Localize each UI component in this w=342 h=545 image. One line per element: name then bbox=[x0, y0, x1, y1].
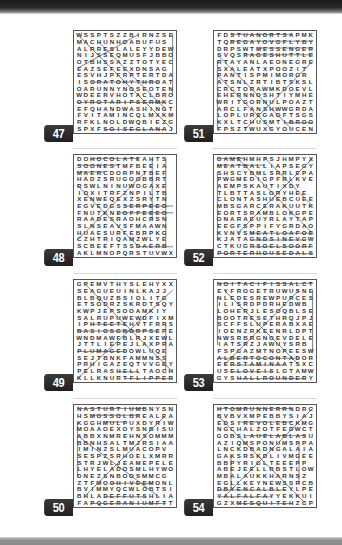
letter-cell: O bbox=[167, 466, 174, 473]
top-dark-band bbox=[0, 0, 342, 14]
word-search-puzzle-51: FDSTUANORTSAPMKTQREGAYOVGFLYBYDRPSWTMESS… bbox=[213, 30, 317, 134]
letter-cell: N bbox=[307, 125, 314, 132]
puzzle-number-label: 54 bbox=[184, 499, 213, 516]
letter-grid: GPEMVTHYSLEHYXXSEAGUEUINLKAJJ BLBQUZBSIO… bbox=[76, 281, 174, 381]
letter-cell: Y bbox=[307, 374, 314, 381]
puzzle-number-label: 51 bbox=[184, 125, 213, 142]
letter-grid: WSSPTSZZBIRNZSEMACHUNHOABUFUS ALRRESLALE… bbox=[76, 32, 174, 132]
letter-grid: NASTURTIUMBNYSNHSMOSSOLBREALEAKGGHMULPUX… bbox=[76, 406, 174, 506]
letter-cell bbox=[167, 169, 174, 176]
letter-cell bbox=[167, 176, 174, 183]
puzzle-number-label: 48 bbox=[44, 249, 73, 266]
letter-cell: S bbox=[307, 294, 314, 301]
letter-grid: FDSTUANORTSAPMKTQREGAYOVGFLYBYDRPSWTMESS… bbox=[216, 32, 314, 132]
separator-line bbox=[73, 273, 177, 274]
letter-cell: W bbox=[307, 466, 314, 473]
word-search-puzzle-53: NOITACIFISSALCTEYFROGETRUWUSNENLEDESREWP… bbox=[213, 279, 317, 383]
letter-cell: X bbox=[167, 281, 174, 288]
separator-line bbox=[73, 148, 177, 149]
letter-cell: R bbox=[167, 374, 174, 381]
letter-cell bbox=[167, 288, 174, 295]
letter-cell bbox=[307, 183, 314, 190]
letter-cell bbox=[167, 189, 174, 196]
letter-cell bbox=[167, 236, 174, 243]
puzzle-number-label: 52 bbox=[184, 249, 213, 266]
letter-cell bbox=[167, 203, 174, 210]
bottom-gray-band bbox=[0, 537, 342, 545]
letter-cell bbox=[167, 223, 174, 230]
letter-cell bbox=[167, 163, 174, 170]
letter-cell: T bbox=[167, 499, 174, 506]
letter-cell bbox=[167, 229, 174, 236]
letter-cell bbox=[167, 216, 174, 223]
letter-grid: NOITACIFISSALCTEYFROGETRUWUSNENLEDESREWP… bbox=[216, 281, 314, 381]
word-search-puzzle-48: DOHOCOLATEAHTS SOONESTMFBEEIA MAERCDORPN… bbox=[73, 154, 177, 258]
letter-cell bbox=[167, 348, 174, 355]
letter-cell bbox=[167, 156, 174, 163]
separator-line bbox=[213, 148, 317, 149]
letter-cell: A bbox=[167, 439, 174, 446]
letter-cell: E bbox=[307, 59, 314, 66]
puzzle-number-label: 47 bbox=[44, 125, 73, 142]
letter-cell: E bbox=[307, 453, 314, 460]
separator-line bbox=[213, 273, 317, 274]
word-search-puzzle-47: WSSPTSZZBIRNZSEMACHUNHOABUFUS ALRRESLALE… bbox=[73, 30, 177, 134]
letter-cell: E bbox=[307, 334, 314, 341]
word-search-puzzle-54: HTOMRUNNERRNDRCBVBVXMPEBBYSIAJEDSIREVOLE… bbox=[213, 404, 317, 508]
puzzle-number-label: 49 bbox=[44, 374, 73, 391]
puzzle-number-label: 53 bbox=[184, 374, 213, 391]
letter-cell: A bbox=[167, 341, 174, 348]
letter-cell: J bbox=[167, 125, 174, 132]
letter-cell bbox=[167, 196, 174, 203]
word-search-puzzle-50: NASTURTIUMBNYSNHSMOSSOLBREALEAKGGHMULPUX… bbox=[73, 404, 177, 508]
letter-cell bbox=[167, 183, 174, 190]
letter-grid: DOHOCOLATEAHTS SOONESTMFBEEIA MAERCDORPN… bbox=[76, 156, 174, 256]
letter-cell: C bbox=[167, 59, 174, 66]
word-search-puzzle-52: GAMEHMHPSJHMPYXMEATBALLIAPSEGYSHSCYBMLSR… bbox=[213, 154, 317, 258]
separator-line bbox=[213, 398, 317, 399]
letter-cell bbox=[167, 209, 174, 216]
letter-grid: GAMEHMHPSJHMPYXMEATBALLIAPSEGYSHSCYBMLSR… bbox=[216, 156, 314, 256]
letter-cell: E bbox=[307, 176, 314, 183]
letter-cell bbox=[307, 65, 314, 72]
puzzle-number-label: 50 bbox=[44, 499, 73, 516]
letter-cell: X bbox=[167, 249, 174, 256]
letter-cell: P bbox=[307, 499, 314, 506]
letter-cell: S bbox=[307, 249, 314, 256]
separator-line bbox=[73, 398, 177, 399]
letter-cell: E bbox=[167, 32, 174, 39]
word-search-puzzle-49: GPEMVTHYSLEHYXXSEAGUEUINLKAJJ BLBQUZBSIO… bbox=[73, 279, 177, 383]
letter-grid: HTOMRUNNERRNDRCBVBVXMPEBBYSIAJEDSIREVOLE… bbox=[216, 406, 314, 506]
letter-cell: Y bbox=[167, 301, 174, 308]
